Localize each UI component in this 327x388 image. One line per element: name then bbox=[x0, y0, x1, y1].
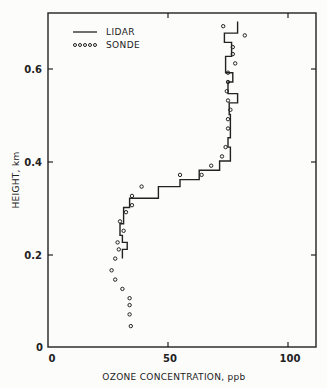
sonde-data-point bbox=[122, 229, 125, 232]
sonde-data-point bbox=[128, 303, 131, 306]
legend-lidar-label: LIDAR bbox=[106, 27, 135, 37]
sonde-data-point bbox=[234, 62, 237, 65]
sonde-data-point bbox=[128, 313, 131, 316]
lidar-series-line bbox=[120, 22, 238, 259]
x-tick-100: 100 bbox=[280, 353, 301, 364]
sonde-data-point bbox=[117, 248, 120, 251]
sonde-data-point bbox=[200, 173, 203, 176]
sonde-data-point bbox=[226, 118, 229, 121]
y-tick-0.4: 0.4 bbox=[24, 157, 42, 168]
sonde-data-point bbox=[220, 155, 223, 158]
y-axis-title: HEIGHT, km bbox=[11, 151, 21, 208]
sonde-data-point bbox=[130, 204, 133, 207]
x-tick-50: 50 bbox=[163, 353, 177, 364]
sonde-data-point bbox=[118, 220, 121, 223]
y-tick-0.2: 0.2 bbox=[24, 250, 42, 261]
sonde-data-point bbox=[243, 34, 246, 37]
sonde-data-point bbox=[129, 324, 132, 327]
sonde-data-point bbox=[128, 297, 131, 300]
x-axis-title: OZONE CONCENTRATION, ppb bbox=[102, 372, 245, 382]
ozone-profile-chart: 0 0.2 0.4 0.6 0 50 100 OZONE CONCENTRATI… bbox=[0, 0, 327, 388]
sonde-data-point bbox=[222, 25, 225, 28]
sonde-data-point bbox=[178, 173, 181, 176]
sonde-data-point bbox=[121, 287, 124, 290]
sonde-data-point bbox=[124, 211, 127, 214]
legend-sonde-label: SONDE bbox=[106, 40, 140, 50]
sonde-data-point bbox=[110, 269, 113, 272]
y-axis-ticks bbox=[48, 69, 316, 255]
sonde-data-point bbox=[140, 185, 143, 188]
sonde-data-point bbox=[114, 257, 117, 260]
y-tick-0: 0 bbox=[36, 342, 43, 353]
sonde-data-point bbox=[210, 164, 213, 167]
y-tick-0.6: 0.6 bbox=[24, 64, 42, 75]
sonde-data-point bbox=[224, 145, 227, 148]
x-tick-0: 0 bbox=[49, 353, 56, 364]
legend-sonde-dots-icon bbox=[74, 44, 97, 47]
sonde-data-point bbox=[116, 241, 119, 244]
legend: LIDAR SONDE bbox=[73, 27, 140, 50]
sonde-data-point bbox=[226, 99, 229, 102]
sonde-data-point bbox=[114, 278, 117, 281]
sonde-data-point bbox=[130, 194, 133, 197]
sonde-data-point bbox=[226, 127, 229, 130]
